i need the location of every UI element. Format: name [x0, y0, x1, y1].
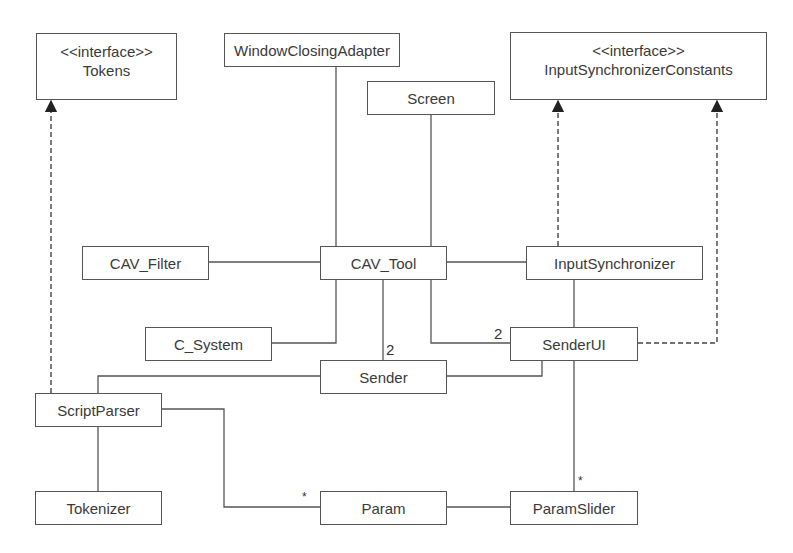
edge-senderui-constants-realization [638, 101, 717, 343]
class-name: Tokenizer [66, 499, 130, 518]
class-name: C_System [174, 335, 243, 354]
class-window-closing-adapter: WindowClosingAdapter [224, 33, 400, 67]
stereotype-label: <<interface>> [592, 41, 685, 60]
class-param: Param [320, 491, 447, 525]
stereotype-label: <<interface>> [60, 42, 153, 61]
edge-sender-senderui [447, 360, 542, 376]
class-cav-tool: CAV_Tool [320, 246, 447, 280]
class-sender-ui: SenderUI [510, 327, 638, 361]
multiplicity-cavtool-sender: 2 [386, 341, 394, 358]
class-name: Param [361, 499, 405, 518]
edge-scriptparser-param [162, 409, 320, 507]
class-cav-filter: CAV_Filter [82, 246, 209, 280]
class-name: ScriptParser [57, 401, 140, 420]
class-name: CAV_Tool [351, 254, 417, 273]
class-name: ParamSlider [533, 499, 616, 518]
multiplicity-scriptparser-param: * [302, 490, 307, 504]
multiplicity-senderui-paramslider: * [578, 474, 583, 488]
class-sender: Sender [320, 360, 447, 394]
class-name: WindowClosingAdapter [234, 41, 390, 60]
class-name: InputSynchronizerConstants [544, 60, 732, 79]
class-name: SenderUI [542, 335, 605, 354]
class-c-system: C_System [145, 327, 272, 361]
edge-sender-scriptparser [98, 376, 320, 393]
class-name: Sender [359, 368, 407, 387]
class-script-parser: ScriptParser [35, 393, 162, 427]
class-input-synchronizer-constants: <<interface>> InputSynchronizerConstants [510, 32, 767, 100]
class-screen: Screen [367, 81, 495, 115]
edge-cavtool-csystem [272, 279, 336, 343]
class-tokenizer: Tokenizer [35, 491, 162, 525]
class-name: InputSynchronizer [554, 254, 675, 273]
multiplicity-cavtool-senderui: 2 [494, 325, 502, 342]
class-input-synchronizer: InputSynchronizer [526, 246, 703, 280]
class-name: Screen [407, 89, 455, 108]
class-tokens: <<interface>> Tokens [36, 33, 177, 100]
class-name: Tokens [83, 61, 131, 80]
class-name: CAV_Filter [110, 254, 181, 273]
class-param-slider: ParamSlider [510, 491, 638, 525]
